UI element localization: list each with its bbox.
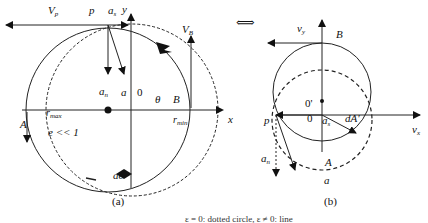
label-rmax: rmax xyxy=(46,108,62,120)
equivalence-arrow-icon: ⟺ xyxy=(236,16,255,29)
label-ae: ae xyxy=(113,170,123,181)
label-vb: VB xyxy=(182,24,193,37)
caption-panel-b: (b) xyxy=(324,196,337,207)
label-y: y xyxy=(122,4,127,15)
ellipse-center-dot xyxy=(105,107,112,114)
panel-b-diagram xyxy=(268,20,420,176)
label-da: dA' xyxy=(345,113,360,124)
caption-panel-a: (a) xyxy=(112,196,124,207)
as-vector xyxy=(108,25,124,74)
label-x: x xyxy=(228,114,233,125)
label-origin-a: 0 xyxy=(137,87,143,98)
label-p-b: p xyxy=(264,115,270,126)
diagram-canvas xyxy=(0,0,428,223)
label-vp: Vp xyxy=(48,5,58,18)
label-b-b: B xyxy=(336,29,343,40)
origin-prime-dot xyxy=(320,99,324,103)
label-vy: vy xyxy=(297,23,305,36)
orbit-diagram-figure: ⟺ Vp p as y VB an a 0 θ B x A rmax rmin … xyxy=(0,0,428,223)
label-b-a: B xyxy=(173,94,180,105)
label-theta: θ xyxy=(155,94,160,105)
bottom-caption: ε = 0: dotted circle, ε ≠ 0: line xyxy=(185,214,293,223)
label-origin-b: 0 xyxy=(307,113,313,124)
label-a-point-b: A xyxy=(325,157,332,168)
label-a: a xyxy=(121,87,127,98)
label-an-b: an xyxy=(261,153,270,166)
label-rmin: rmin xyxy=(173,115,187,127)
label-a-point: A xyxy=(20,119,27,130)
label-an: an xyxy=(99,86,108,99)
orbit-direction-icon xyxy=(156,42,172,54)
label-eccentricity: e << 1 xyxy=(48,127,79,138)
label-a-b: a xyxy=(324,175,330,186)
label-as-b: as xyxy=(322,115,330,128)
label-as: as xyxy=(108,5,116,18)
label-p: p xyxy=(89,5,95,16)
label-origin-prime: 0' xyxy=(305,98,312,109)
label-vx: vx xyxy=(412,124,420,137)
